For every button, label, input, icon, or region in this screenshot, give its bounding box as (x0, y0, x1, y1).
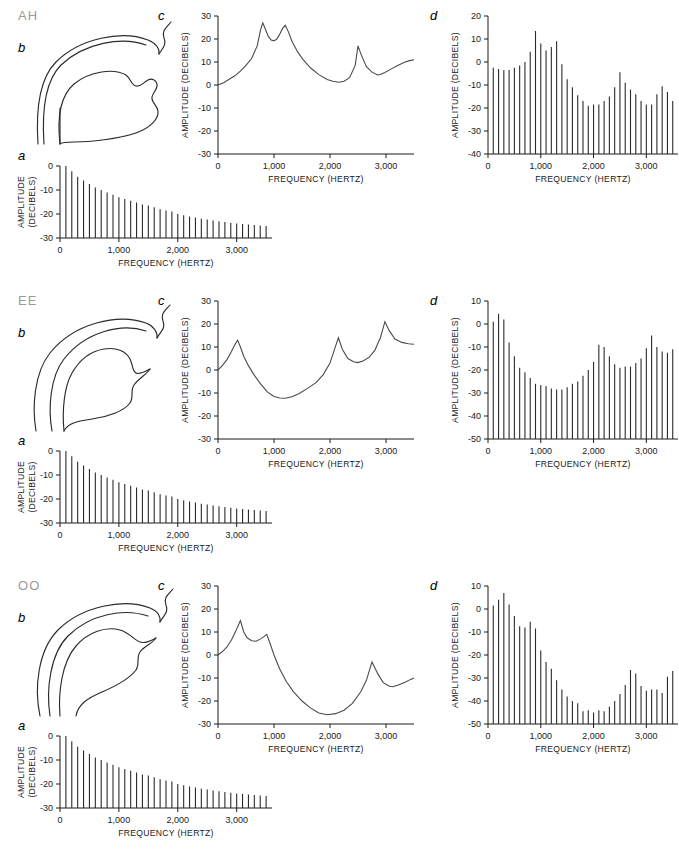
svg-text:1,000: 1,000 (530, 446, 553, 456)
svg-text:-30: -30 (40, 518, 53, 528)
output-spectrum-ee: 100-10-20-30-40-5001,0002,0003,000FREQUE… (448, 291, 679, 473)
svg-text:-30: -30 (198, 149, 211, 159)
svg-text:-10: -10 (468, 342, 481, 352)
svg-text:FREQUENCY (HERTZ): FREQUENCY (HERTZ) (118, 258, 214, 268)
svg-text:2,000: 2,000 (319, 161, 342, 171)
panel-letter-d-oo: d (430, 578, 437, 593)
svg-text:1,000: 1,000 (108, 815, 131, 825)
svg-text:AMPLITUDE (DECIBELS): AMPLITUDE (DECIBELS) (180, 602, 190, 708)
svg-text:30: 30 (201, 581, 211, 591)
svg-text:2,000: 2,000 (167, 815, 190, 825)
vocal-tract-profile-oo (30, 588, 180, 720)
vowel-row-ah: AHbacd0-10-20-3001,0002,0003,000FREQUENC… (0, 0, 679, 287)
svg-text:0: 0 (485, 161, 490, 171)
svg-text:-40: -40 (468, 149, 481, 159)
svg-text:2,000: 2,000 (582, 161, 605, 171)
svg-text:-30: -30 (468, 126, 481, 136)
transfer-function-curve (218, 621, 414, 715)
panel-letter-b-oo: b (18, 610, 25, 625)
svg-text:-20: -20 (40, 209, 53, 219)
panel-letter-d-ee: d (430, 293, 437, 308)
svg-text:20: 20 (471, 11, 481, 21)
svg-text:0: 0 (48, 161, 53, 171)
svg-text:AMPLITUDE: AMPLITUDE (16, 746, 26, 798)
svg-text:3,000: 3,000 (375, 161, 398, 171)
svg-text:-20: -20 (468, 103, 481, 113)
svg-text:-20: -20 (198, 696, 211, 706)
svg-text:20: 20 (201, 34, 211, 44)
svg-text:-10: -10 (198, 673, 211, 683)
svg-text:2,000: 2,000 (167, 530, 190, 540)
svg-text:(DECIBELS): (DECIBELS) (27, 176, 37, 227)
svg-text:0: 0 (476, 604, 481, 614)
svg-text:3,000: 3,000 (635, 731, 658, 741)
panel-letter-b-ee: b (18, 325, 25, 340)
svg-text:2,000: 2,000 (582, 446, 605, 456)
transfer-function-oo: 3020100-10-20-3001,0002,0003,000FREQUENC… (176, 576, 430, 758)
svg-text:-20: -20 (468, 650, 481, 660)
svg-text:FREQUENCY (HERTZ): FREQUENCY (HERTZ) (535, 459, 631, 469)
panel-letter-d-ah: d (430, 8, 437, 23)
svg-text:0: 0 (57, 245, 62, 255)
svg-text:FREQUENCY (HERTZ): FREQUENCY (HERTZ) (268, 174, 364, 184)
vowel-row-oo: OObacd0-10-20-3001,0002,0003,000FREQUENC… (0, 570, 679, 857)
svg-text:0: 0 (485, 446, 490, 456)
svg-text:10: 10 (201, 342, 211, 352)
vocal-tract-ah (30, 18, 180, 150)
ee-output-plot: 100-10-20-30-40-5001,0002,0003,000FREQUE… (448, 291, 679, 473)
svg-text:0: 0 (57, 530, 62, 540)
transfer-function-curve (218, 322, 414, 399)
svg-text:2,000: 2,000 (319, 731, 342, 741)
svg-text:3,000: 3,000 (225, 815, 248, 825)
vocal-tract-oo (30, 588, 180, 720)
svg-text:0: 0 (206, 80, 211, 90)
transfer-function-ee: 3020100-10-20-3001,0002,0003,000FREQUENC… (176, 291, 430, 473)
svg-text:0: 0 (48, 731, 53, 741)
transfer-function-ah: 3020100-10-20-3001,0002,0003,000FREQUENC… (176, 6, 430, 188)
svg-text:0: 0 (485, 731, 490, 741)
svg-text:20: 20 (201, 319, 211, 329)
svg-text:1,000: 1,000 (530, 731, 553, 741)
svg-text:3,000: 3,000 (225, 245, 248, 255)
svg-text:AMPLITUDE (DECIBELS): AMPLITUDE (DECIBELS) (450, 602, 460, 708)
svg-text:-40: -40 (468, 411, 481, 421)
svg-text:-30: -30 (198, 719, 211, 729)
vocal-tract-ee (30, 303, 180, 435)
svg-text:-20: -20 (198, 411, 211, 421)
svg-text:10: 10 (471, 296, 481, 306)
svg-text:0: 0 (206, 365, 211, 375)
svg-text:0: 0 (215, 446, 220, 456)
svg-text:-30: -30 (468, 673, 481, 683)
svg-text:FREQUENCY (HERTZ): FREQUENCY (HERTZ) (535, 174, 631, 184)
svg-text:10: 10 (201, 57, 211, 67)
output-spectrum-ah: 20100-10-20-30-4001,0002,0003,000FREQUEN… (448, 6, 679, 188)
ah-transfer-plot: 3020100-10-20-3001,0002,0003,000FREQUENC… (176, 6, 430, 188)
svg-text:0: 0 (476, 319, 481, 329)
oo-output-plot: 100-10-20-30-40-5001,0002,0003,000FREQUE… (448, 576, 679, 758)
svg-text:AMPLITUDE (DECIBELS): AMPLITUDE (DECIBELS) (180, 32, 190, 138)
svg-text:-20: -20 (198, 126, 211, 136)
svg-text:2,000: 2,000 (167, 245, 190, 255)
svg-text:1,000: 1,000 (263, 731, 286, 741)
svg-text:-20: -20 (468, 365, 481, 375)
svg-text:1,000: 1,000 (108, 530, 131, 540)
transfer-function-curve (218, 23, 414, 85)
svg-text:30: 30 (201, 296, 211, 306)
vowel-row-ee: EEbacd0-10-20-3001,0002,0003,000FREQUENC… (0, 285, 679, 572)
svg-text:(DECIBELS): (DECIBELS) (27, 746, 37, 797)
oo-transfer-plot: 3020100-10-20-3001,0002,0003,000FREQUENC… (176, 576, 430, 758)
svg-text:-30: -30 (40, 233, 53, 243)
svg-text:AMPLITUDE (DECIBELS): AMPLITUDE (DECIBELS) (450, 317, 460, 423)
svg-text:0: 0 (206, 650, 211, 660)
svg-text:-30: -30 (40, 803, 53, 813)
svg-text:0: 0 (215, 161, 220, 171)
svg-text:10: 10 (201, 627, 211, 637)
svg-text:AMPLITUDE (DECIBELS): AMPLITUDE (DECIBELS) (180, 317, 190, 423)
svg-text:-10: -10 (40, 185, 53, 195)
svg-text:30: 30 (201, 11, 211, 21)
svg-text:AMPLITUDE: AMPLITUDE (16, 176, 26, 228)
svg-text:FREQUENCY (HERTZ): FREQUENCY (HERTZ) (118, 543, 214, 553)
svg-text:FREQUENCY (HERTZ): FREQUENCY (HERTZ) (118, 828, 214, 838)
svg-text:-30: -30 (198, 434, 211, 444)
panel-letter-b-ah: b (18, 40, 25, 55)
